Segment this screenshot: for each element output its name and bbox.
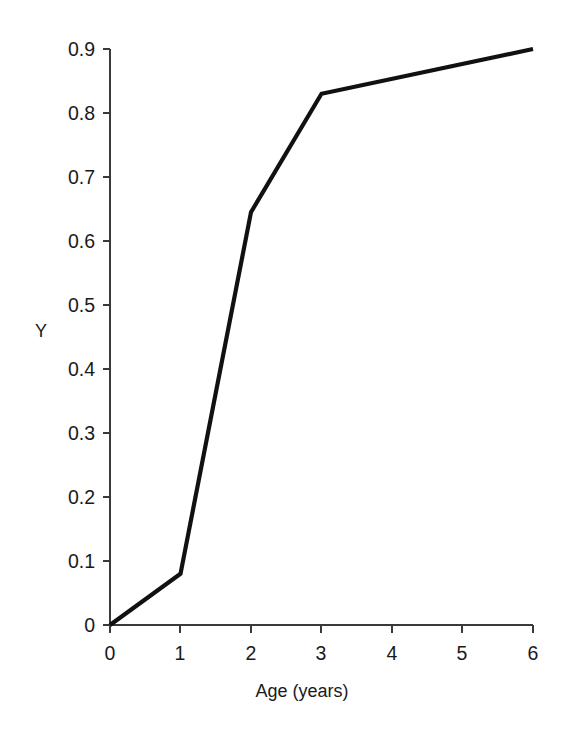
x-tick-label-4: 4 bbox=[387, 642, 398, 664]
y-tick-label-0-1: 0.1 bbox=[68, 550, 95, 572]
x-tick-label-2: 2 bbox=[246, 642, 257, 664]
y-tick-label-0-4: 0.4 bbox=[68, 358, 95, 380]
x-tick-label-5: 5 bbox=[457, 642, 468, 664]
y-tick-label-0-9: 0.9 bbox=[68, 38, 95, 60]
line-chart-canvas: 0 0.1 0.2 0.3 0.4 0.5 0.6 0.7 0.8 0.9 0 … bbox=[0, 0, 569, 733]
x-axis-ticks bbox=[110, 625, 533, 633]
y-tick-label-0-7: 0.7 bbox=[68, 166, 95, 188]
x-tick-label-1: 1 bbox=[175, 642, 186, 664]
y-axis-title: Y bbox=[35, 321, 47, 341]
data-series-line bbox=[110, 49, 533, 625]
y-tick-label-0-2: 0.2 bbox=[68, 486, 95, 508]
chart-figure: 0 0.1 0.2 0.3 0.4 0.5 0.6 0.7 0.8 0.9 0 … bbox=[0, 0, 569, 733]
y-tick-label-0-5: 0.5 bbox=[68, 294, 95, 316]
x-axis-title: Age (years) bbox=[255, 681, 348, 701]
x-tick-label-6: 6 bbox=[528, 642, 539, 664]
y-tick-label-0: 0 bbox=[84, 614, 95, 636]
y-tick-label-0-6: 0.6 bbox=[68, 230, 95, 252]
x-tick-label-3: 3 bbox=[316, 642, 327, 664]
y-axis-ticks bbox=[103, 49, 110, 625]
x-tick-label-0: 0 bbox=[105, 642, 116, 664]
y-tick-label-0-8: 0.8 bbox=[68, 102, 95, 124]
y-tick-label-0-3: 0.3 bbox=[68, 422, 95, 444]
